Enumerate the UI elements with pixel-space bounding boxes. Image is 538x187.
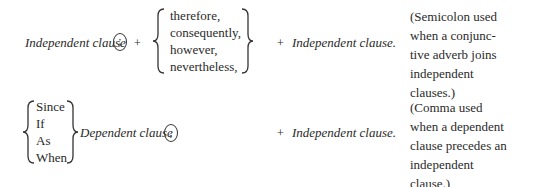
conjunctive-adverb-list: therefore, consequently, however, nevert… — [170, 7, 241, 75]
semicolon-note: (Semicolon used when a conjunc- tive adv… — [410, 7, 497, 102]
adverb-however: however, — [170, 41, 241, 58]
right-brace-icon — [240, 8, 254, 74]
left-brace-icon — [22, 100, 36, 164]
adverb-nevertheless: nevertheless, — [170, 58, 241, 75]
comma-circle: , — [164, 124, 178, 142]
subordinator-if: If — [36, 115, 67, 132]
plus-sign: + — [277, 126, 284, 141]
plus-sign: + — [277, 36, 284, 51]
adverb-therefore: therefore, — [170, 7, 241, 24]
independent-clause-label: Independent clause — [25, 35, 126, 51]
subordinator-when: When — [36, 149, 67, 166]
subordinator-as: As — [36, 132, 67, 149]
dependent-clause-label: Dependent clause — [80, 125, 173, 141]
comma-note: (Comma used when a dependent clause prec… — [410, 98, 507, 187]
independent-clause-label: Independent clause. — [292, 35, 396, 51]
left-brace-icon — [152, 8, 166, 74]
right-brace-icon — [65, 100, 79, 164]
subordinator-since: Since — [36, 98, 67, 115]
semicolon-circle: ; — [113, 33, 127, 51]
independent-clause-label: Independent clause. — [292, 125, 396, 141]
adverb-consequently: consequently, — [170, 24, 241, 41]
subordinator-list: Since If As When — [36, 98, 67, 166]
plus-sign: + — [134, 36, 141, 51]
